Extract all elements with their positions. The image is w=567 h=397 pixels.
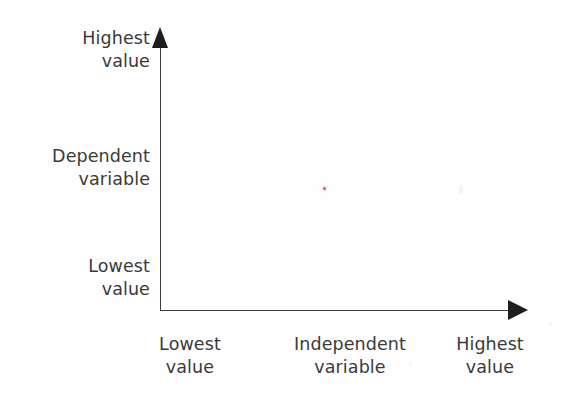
y-axis-label-lowest-value: Lowest value (0, 255, 150, 301)
y-axis-title-dependent-variable: Dependent variable (0, 145, 150, 191)
data-point-marker (323, 187, 326, 190)
x-axis-line (160, 310, 514, 311)
x-axis-label-lowest-value: Lowest value (120, 333, 260, 379)
arrow-right-icon (508, 300, 528, 320)
x-axis-title-independent-variable: Independent variable (265, 333, 435, 379)
scan-speckle (459, 185, 463, 194)
scan-speckle (409, 363, 412, 366)
y-axis-line (160, 44, 161, 311)
scan-speckle (549, 322, 552, 325)
arrow-up-icon (152, 27, 168, 48)
x-axis-label-highest-value: Highest value (425, 333, 555, 379)
figure-canvas: Highest value Dependent variable Lowest … (0, 0, 567, 397)
y-axis-label-highest-value: Highest value (0, 27, 150, 73)
